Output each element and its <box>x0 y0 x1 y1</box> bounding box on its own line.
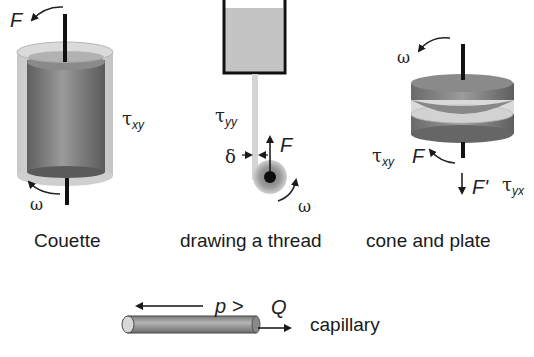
stress-label: τyy <box>215 105 238 129</box>
thread <box>252 74 258 180</box>
angular-velocity-label: ω <box>298 197 311 216</box>
caption-capillary: capillary <box>310 314 380 335</box>
weight-ball <box>264 171 276 183</box>
caption-drawing-thread: drawing a thread <box>180 230 322 251</box>
capillary-panel: p > Q capillary <box>122 295 380 335</box>
force-label: F <box>10 9 24 31</box>
force-label: F <box>280 134 294 156</box>
angular-velocity-label: ω <box>397 48 410 67</box>
stress-label: τxy <box>122 108 145 132</box>
stress-xy-label: τxy <box>372 145 395 169</box>
inner-bob <box>27 60 105 172</box>
torque-arrow-icon <box>430 150 455 163</box>
rotation-arrow-icon <box>419 38 450 51</box>
tube-end <box>122 316 134 333</box>
angular-velocity-label: ω <box>30 195 43 214</box>
caption-cone-plate: cone and plate <box>366 230 491 251</box>
caption-couette: Couette <box>34 230 101 251</box>
capillary-tube <box>128 316 256 333</box>
pressure-label: p > <box>214 295 243 317</box>
rheometry-diagram: F τxy ω F τyy δ ω <box>0 0 534 357</box>
cone-plate-panel: ω τxy F F' τyx <box>372 38 525 198</box>
couette-panel: F τxy ω <box>10 7 145 214</box>
stress-yx-label: τyx <box>502 174 525 198</box>
liquid-reservoir <box>225 8 283 72</box>
force-arrow-icon <box>32 7 63 20</box>
thickness-label: δ <box>225 146 236 167</box>
thread-panel: F τyy δ ω <box>215 0 311 216</box>
inner-bob-bottom <box>27 166 105 178</box>
plate-bottom <box>411 125 513 143</box>
flow-label: Q <box>271 296 287 318</box>
normal-force-label: F' <box>472 176 489 198</box>
force-label: F <box>412 145 426 167</box>
